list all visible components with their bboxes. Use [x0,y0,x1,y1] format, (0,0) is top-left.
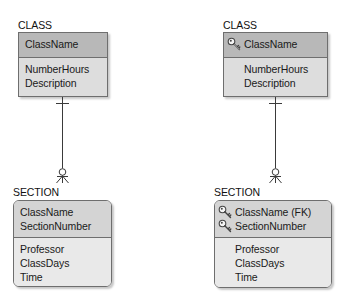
right-relationship-line [269,97,282,183]
left-relationship-line [56,97,69,183]
crows-foot-icon [57,175,69,183]
zero-circle-icon [272,169,279,176]
zero-circle-icon [59,169,66,176]
relationship-connectors [0,0,348,307]
crows-foot-icon [270,175,282,183]
